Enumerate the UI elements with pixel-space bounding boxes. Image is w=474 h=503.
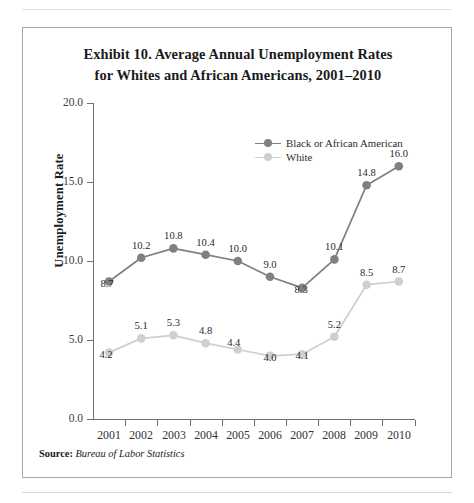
data-label-white-2006: 4.0	[253, 352, 287, 363]
data-label-black-2001: 8.7	[90, 278, 124, 289]
data-label-black-2004: 10.4	[189, 237, 223, 248]
legend-label-white: White	[286, 151, 312, 163]
data-point-white-2003	[169, 331, 178, 340]
data-label-white-2009: 8.5	[350, 267, 384, 278]
page-rule-top	[22, 9, 452, 10]
exhibit-frame: Exhibit 10. Average Annual Unemployment …	[22, 27, 452, 478]
data-label-white-2007: 4.1	[285, 350, 319, 361]
source-label: Source:	[39, 448, 73, 459]
legend-label-black: Black or African American	[286, 137, 403, 149]
circle-marker-icon-white	[255, 152, 281, 162]
data-point-white-2008	[330, 333, 339, 342]
data-label-black-2008: 10.1	[317, 241, 351, 252]
data-point-white-2009	[362, 280, 371, 289]
data-label-black-2002: 10.2	[124, 240, 158, 251]
chart-plot-area: Unemployment Rate 0.0 5.0 10.0 15.0 20.0	[23, 28, 453, 479]
data-point-black-2006	[266, 273, 275, 282]
legend-dot-black	[264, 139, 272, 147]
legend-item-white: White	[255, 150, 403, 164]
data-label-white-2003: 5.3	[156, 317, 190, 328]
data-label-black-2009: 14.8	[350, 167, 384, 178]
circle-marker-icon-black	[255, 138, 281, 148]
legend-item-black: Black or African American	[255, 136, 403, 150]
data-label-white-2008: 5.2	[317, 319, 351, 330]
data-point-black-2002	[137, 254, 146, 263]
data-point-white-2010	[395, 277, 404, 286]
legend-dot-white	[264, 153, 272, 161]
source-note: Source: Bureau of Labor Statistics	[39, 448, 185, 459]
data-label-white-2001: 4.2	[89, 349, 123, 360]
data-label-white-2004: 4.8	[189, 325, 223, 336]
exhibit-page: Exhibit 10. Average Annual Unemployment …	[0, 0, 474, 503]
data-point-black-2004	[201, 250, 210, 259]
data-label-white-2002: 5.1	[124, 320, 158, 331]
data-label-white-2005: 4.4	[217, 337, 251, 348]
data-label-black-2003: 10.8	[156, 230, 190, 241]
data-point-black-2009	[362, 181, 371, 190]
data-label-black-2007: 8.3	[284, 284, 318, 295]
data-point-white-2004	[201, 339, 210, 348]
data-point-white-2002	[137, 334, 146, 343]
page-rule-bottom	[22, 492, 452, 493]
data-point-black-2008	[330, 255, 339, 264]
data-point-black-2003	[169, 244, 178, 253]
chart-legend: Black or African American White	[255, 136, 403, 164]
data-label-black-2005: 10.0	[221, 243, 255, 254]
data-label-white-2010: 8.7	[382, 264, 416, 275]
series-markers-white	[105, 277, 403, 360]
data-point-black-2005	[234, 257, 243, 266]
series-line-white	[109, 282, 399, 356]
data-label-black-2006: 9.0	[253, 259, 287, 270]
source-value: Bureau of Labor Statistics	[75, 448, 184, 459]
